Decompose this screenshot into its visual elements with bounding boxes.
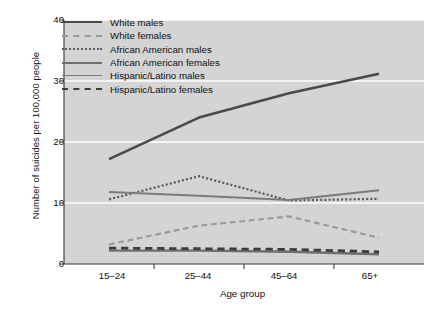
legend-item-white-males: White males [62, 16, 322, 29]
legend-label-african-american-males: African American males [110, 45, 212, 55]
legend-label-hispanic-latino-males: Hispanic/Latino males [110, 71, 205, 81]
legend-item-hispanic-latino-males: Hispanic/Latino males [62, 70, 322, 83]
suicide-rate-line-chart: Number of suicides per 100,000 people 40… [0, 0, 439, 310]
legend-item-hispanic-latino-females: Hispanic/Latino females [62, 83, 322, 96]
chart-legend: White males White females African Americ… [62, 16, 322, 96]
legend-item-african-american-males: African American males [62, 43, 322, 56]
legend-label-hispanic-latino-females: Hispanic/Latino females [110, 85, 213, 95]
legend-item-white-females: White females [62, 29, 322, 42]
legend-line-swatch-hispanic-latino-females [62, 84, 102, 96]
legend-item-african-american-females: African American females [62, 56, 322, 69]
legend-line-swatch-white-females [62, 30, 102, 42]
legend-line-swatch-african-american-females [62, 57, 102, 69]
legend-label-african-american-females: African American females [110, 58, 220, 68]
legend-line-swatch-white-males [62, 17, 102, 29]
legend-label-white-females: White females [110, 31, 171, 41]
legend-line-swatch-hispanic-latino-males [62, 70, 102, 82]
legend-line-swatch-african-american-males [62, 43, 102, 55]
legend-label-white-males: White males [110, 18, 163, 28]
